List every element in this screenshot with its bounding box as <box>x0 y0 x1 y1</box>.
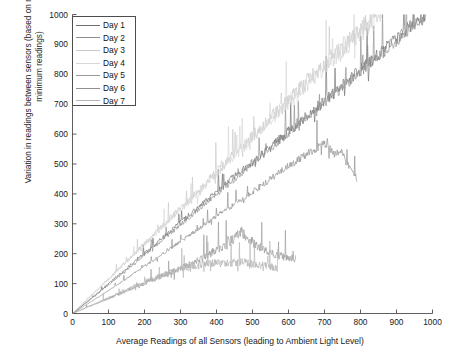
x-tick-label: 800 <box>354 317 368 327</box>
legend-label-day-2: Day 2 <box>103 34 125 42</box>
x-tick-label: 400 <box>210 317 224 327</box>
legend-swatch-day-2 <box>76 37 100 38</box>
y-tick-label: 400 <box>34 189 68 199</box>
x-tick-label: 100 <box>102 317 116 327</box>
legend-item-day-2[interactable]: Day 2 <box>73 32 137 45</box>
x-tick-label: 200 <box>138 317 152 327</box>
legend-swatch-day-1 <box>76 25 100 26</box>
legend-swatch-day-5 <box>76 75 100 76</box>
legend-label-day-5: Day 5 <box>103 71 125 79</box>
y-tick-label: 500 <box>34 159 68 169</box>
y-tick-label: 800 <box>34 69 68 79</box>
legend-label-day-4: Day 4 <box>103 59 125 67</box>
x-tick-label: 500 <box>246 317 260 327</box>
legend-swatch-day-4 <box>76 63 100 64</box>
y-tick-label: 700 <box>34 99 68 109</box>
legend-item-day-3[interactable]: Day 3 <box>73 44 137 57</box>
y-tick-label: 0 <box>34 309 68 319</box>
chart-legend: Day 1Day 2Day 3Day 4Day 5Day 6Day 7 <box>72 16 136 106</box>
x-tick-label: 300 <box>174 317 188 327</box>
legend-label-day-6: Day 6 <box>103 84 125 92</box>
legend-label-day-3: Day 3 <box>103 46 125 54</box>
legend-label-day-7: Day 7 <box>103 97 125 105</box>
legend-swatch-day-3 <box>76 50 100 51</box>
legend-swatch-day-6 <box>76 88 100 89</box>
legend-item-day-4[interactable]: Day 4 <box>73 57 137 70</box>
series-line-day-6 <box>73 120 357 313</box>
legend-item-day-7[interactable]: Day 7 <box>73 95 137 108</box>
chart-figure: Variation in readings between sensors (b… <box>0 0 449 357</box>
x-tick-label: 0 <box>70 317 75 327</box>
x-tick-label: 900 <box>390 317 404 327</box>
x-tick-label: 700 <box>318 317 332 327</box>
y-tick-label: 1000 <box>34 10 68 20</box>
series-line-day-7 <box>73 240 278 314</box>
x-axis-label: Average Readings of all Sensors (leading… <box>40 336 440 346</box>
plot-canvas <box>0 0 449 357</box>
x-tick-label: 1000 <box>423 317 442 327</box>
y-tick-label: 300 <box>34 219 68 229</box>
legend-label-day-1: Day 1 <box>103 21 125 29</box>
legend-swatch-day-7 <box>76 100 100 101</box>
y-tick-label: 100 <box>34 279 68 289</box>
x-tick-label: 600 <box>282 317 296 327</box>
legend-item-day-6[interactable]: Day 6 <box>73 82 137 95</box>
y-tick-label: 200 <box>34 249 68 259</box>
legend-item-day-1[interactable]: Day 1 <box>73 19 137 32</box>
legend-item-day-5[interactable]: Day 5 <box>73 69 137 82</box>
y-tick-label: 600 <box>34 129 68 139</box>
y-tick-label: 900 <box>34 39 68 49</box>
